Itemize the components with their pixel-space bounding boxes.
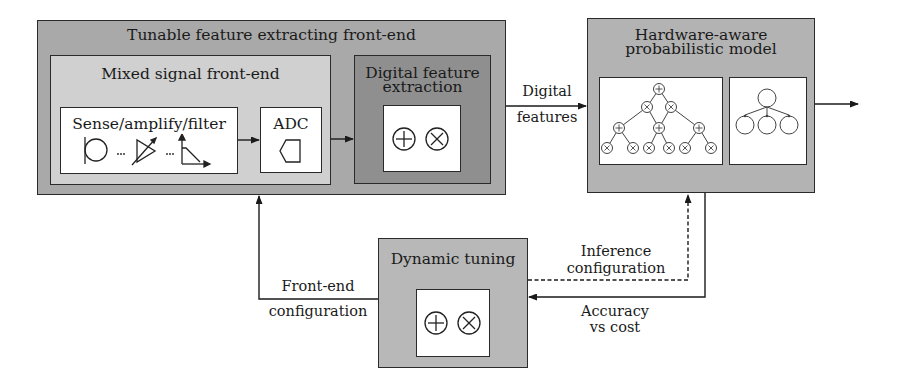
inference-config-label-line1: Inference xyxy=(550,244,682,259)
connection-arrows xyxy=(0,0,898,387)
digital-features-label-line1: Digital xyxy=(509,84,585,99)
frontend-config-label-line2: configuration xyxy=(262,304,374,319)
frontend-config-label-line1: Front-end xyxy=(262,279,374,294)
accuracy-label-line2: vs cost xyxy=(560,320,670,335)
inference-config-label-line2: configuration xyxy=(550,261,682,276)
digital-features-label-line2: features xyxy=(509,110,585,125)
accuracy-label-line1: Accuracy xyxy=(560,304,670,319)
